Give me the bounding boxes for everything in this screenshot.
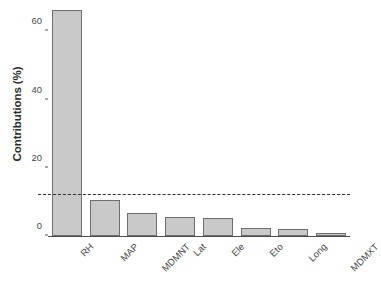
x-tick-label-mdmnt: MDMNT — [160, 241, 193, 274]
x-tick-label-ele: Ele — [229, 241, 246, 258]
bar-mdmnt — [127, 213, 157, 236]
y-tick-label: 60 — [31, 15, 48, 26]
x-tick-label-mdmxt: MDMXT — [348, 241, 380, 273]
y-tick-label: 0 — [37, 220, 48, 231]
y-tick-label: 40 — [31, 83, 48, 94]
y-tick-mark — [45, 98, 48, 99]
x-tick-label-rh: RH — [78, 241, 95, 258]
y-tick-label: 20 — [31, 151, 48, 162]
bar-long — [278, 229, 308, 236]
x-tick-label-eto: Eto — [267, 241, 285, 259]
plot-area: 0204060 — [48, 4, 350, 237]
x-axis-line — [48, 236, 350, 237]
y-tick-mark — [45, 30, 48, 31]
bar-lat — [165, 217, 195, 236]
bar-ele — [203, 218, 233, 236]
y-tick-mark — [45, 235, 48, 236]
x-tick-label-map: MAP — [118, 241, 140, 263]
bar-rh — [52, 10, 82, 236]
threshold-dashed-line — [38, 194, 350, 195]
x-tick-label-lat: Lat — [191, 241, 208, 258]
bar-eto — [241, 228, 271, 236]
y-tick-mark — [45, 166, 48, 167]
x-tick-label-long: Long — [307, 241, 330, 264]
y-axis-title: Contributions (%) — [11, 34, 23, 194]
bar-map — [90, 200, 120, 237]
bar-mdmxt — [316, 233, 346, 236]
